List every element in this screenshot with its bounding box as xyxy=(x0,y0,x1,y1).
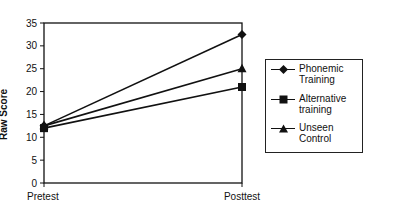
y-tick-label: 30 xyxy=(26,40,38,51)
x-tick-label: Pretest xyxy=(27,191,59,202)
y-tick-label: 0 xyxy=(31,178,37,189)
square-marker xyxy=(238,83,246,91)
y-tick-label: 10 xyxy=(26,132,38,143)
y-tick-label: 20 xyxy=(26,86,38,97)
diamond-marker xyxy=(238,30,247,39)
series-line xyxy=(44,34,242,125)
legend-label: UnseenControl xyxy=(299,122,361,144)
legend-item-unseen: UnseenControl xyxy=(266,122,362,152)
legend-item-phonemic: PhonemicTraining xyxy=(266,63,362,93)
x-tick-label: Posttest xyxy=(224,191,260,202)
legend: PhonemicTraining Alternativetraining Uns… xyxy=(265,59,363,153)
square-marker-icon xyxy=(279,95,288,104)
legend-label: PhonemicTraining xyxy=(299,63,361,85)
series-line xyxy=(44,69,242,126)
series-line xyxy=(44,87,242,128)
y-tick-label: 35 xyxy=(26,18,38,29)
legend-label: Alternativetraining xyxy=(299,93,361,115)
y-tick-label: 5 xyxy=(31,155,37,166)
triangle-marker-icon xyxy=(279,124,288,133)
diamond-marker-icon xyxy=(279,65,288,74)
triangle-marker xyxy=(238,64,247,73)
y-axis-label: Raw Score xyxy=(0,89,9,140)
y-tick-label: 15 xyxy=(26,109,38,120)
legend-item-alternative: Alternativetraining xyxy=(266,93,362,123)
y-tick-label: 25 xyxy=(26,63,38,74)
plot-area xyxy=(44,23,242,183)
